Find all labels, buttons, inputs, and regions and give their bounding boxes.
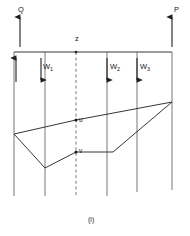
label-left-reaction: Q: [18, 6, 24, 14]
label-load-w3: W3: [140, 63, 150, 71]
label-point-u: u: [79, 117, 83, 124]
statics-diagram: [0, 0, 190, 236]
figure-caption: (i): [88, 216, 94, 223]
label-load-w1: W1: [43, 63, 53, 71]
label-load-w2-sub: 2: [117, 66, 120, 72]
polygon-right-edge: [113, 102, 172, 152]
point-u-marker: [75, 119, 78, 122]
polygon-upper-chord: [14, 102, 172, 134]
polygon-lower-chord: [14, 134, 113, 168]
label-load-w1-sub: 1: [50, 66, 53, 72]
label-point-v: v: [79, 148, 82, 155]
label-centerline-z: z: [75, 35, 79, 43]
label-load-w2: W2: [110, 63, 120, 71]
point-v-marker: [75, 151, 78, 154]
figure-container: Q P z W1 W2 W3 u v (i): [0, 0, 190, 236]
label-right-reaction: P: [174, 6, 179, 14]
point-z-marker: [75, 51, 78, 54]
label-load-w3-sub: 3: [147, 66, 150, 72]
